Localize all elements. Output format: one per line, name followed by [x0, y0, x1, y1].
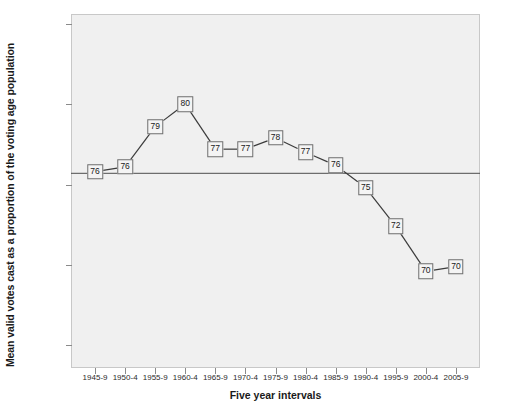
data-point-label: 76: [328, 158, 343, 174]
x-tick-label: 1945-9: [83, 373, 108, 382]
data-point-label: 70: [418, 264, 433, 280]
x-tick-label: 1985-9: [323, 373, 348, 382]
x-tick-label: 1990-4: [353, 373, 378, 382]
data-point-label: 79: [147, 119, 162, 135]
x-tick-label: 1995-9: [383, 373, 408, 382]
data-point-label: 77: [238, 141, 253, 157]
x-tick-label: 2005-9: [443, 373, 468, 382]
plot-area: [71, 14, 480, 368]
x-tick-mark: [366, 368, 367, 374]
y-tick-mark: [66, 185, 72, 186]
data-point-label: 75: [358, 180, 373, 196]
y-tick-mark: [66, 104, 72, 105]
data-point-label: 77: [208, 141, 223, 157]
x-tick-label: 1980-4: [293, 373, 318, 382]
x-axis-title: Five year intervals: [71, 389, 480, 401]
x-tick-label: 1975-9: [263, 373, 288, 382]
x-tick-mark: [155, 368, 156, 374]
data-point-label: 76: [87, 164, 102, 180]
x-tick-mark: [95, 368, 96, 374]
x-tick-label: 1965-9: [203, 373, 228, 382]
x-tick-label: 1960-4: [173, 373, 198, 382]
x-tick-mark: [426, 368, 427, 374]
x-tick-mark: [125, 368, 126, 374]
data-point-label: 78: [268, 130, 283, 146]
x-tick-mark: [245, 368, 246, 374]
data-point-label: 80: [178, 96, 193, 112]
data-point-label: 70: [448, 259, 463, 275]
data-point-label: 72: [388, 219, 403, 235]
y-axis-title: Mean valid votes cast as a proportion of…: [0, 0, 20, 410]
data-point-label: 76: [117, 159, 132, 175]
x-tick-label: 1955-9: [143, 373, 168, 382]
line-chart: Mean valid votes cast as a proportion of…: [0, 0, 506, 410]
x-tick-mark: [396, 368, 397, 374]
data-point-label: 77: [298, 145, 313, 161]
x-tick-mark: [185, 368, 186, 374]
x-tick-mark: [276, 368, 277, 374]
x-tick-mark: [306, 368, 307, 374]
y-tick-mark: [66, 24, 72, 25]
x-tick-label: 1950-4: [113, 373, 138, 382]
x-tick-mark: [215, 368, 216, 374]
x-tick-mark: [336, 368, 337, 374]
x-tick-label: 2000-4: [413, 373, 438, 382]
x-tick-label: 1970-4: [233, 373, 258, 382]
x-tick-mark: [456, 368, 457, 374]
y-tick-mark: [66, 265, 72, 266]
y-tick-mark: [66, 345, 72, 346]
